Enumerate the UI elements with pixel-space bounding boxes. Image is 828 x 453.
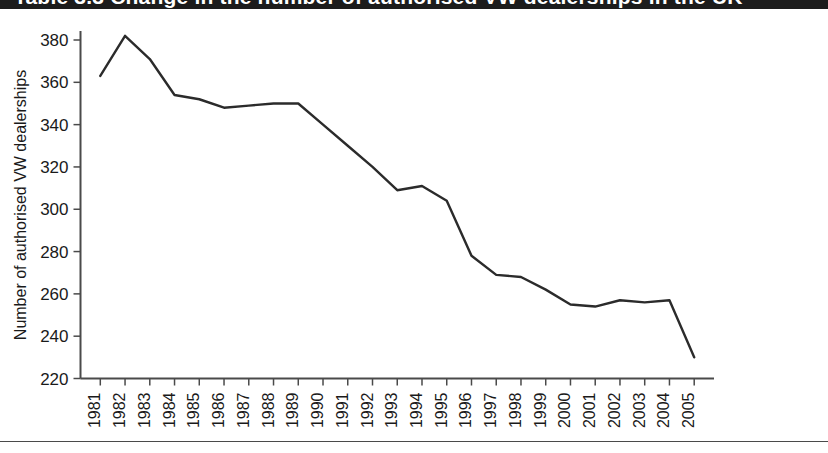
y-axis-title: Number of authorised VW dealerships bbox=[12, 70, 29, 340]
x-tick-label: 1993 bbox=[383, 392, 400, 428]
x-tick-label: 2002 bbox=[606, 392, 623, 428]
x-tick-label: 1982 bbox=[111, 392, 128, 428]
y-tick-label: 240 bbox=[40, 327, 68, 346]
x-tick-label: 1992 bbox=[359, 392, 376, 428]
y-axis-ticks bbox=[74, 40, 81, 379]
x-tick-label: 2004 bbox=[655, 392, 672, 428]
page-bottom-fill bbox=[0, 444, 828, 453]
x-tick-label: 1998 bbox=[507, 392, 524, 428]
y-tick-label: 300 bbox=[40, 200, 68, 219]
chart-figure: 220240260280300320340360380 198119821983… bbox=[0, 9, 828, 434]
x-tick-label: 1989 bbox=[284, 392, 301, 428]
x-tick-label: 1987 bbox=[235, 392, 252, 428]
y-tick-label: 380 bbox=[40, 31, 68, 50]
title-banner: Table 3.3 Change in the number of author… bbox=[0, 0, 828, 9]
data-series-line bbox=[100, 36, 694, 358]
banner-title-text: Table 3.3 Change in the number of author… bbox=[14, 0, 743, 9]
y-tick-label: 260 bbox=[40, 285, 68, 304]
x-tick-label: 1996 bbox=[457, 392, 474, 428]
x-tick-label: 1990 bbox=[309, 392, 326, 428]
x-axis-tick-labels: 1981198219831984198519861987198819891990… bbox=[86, 392, 697, 428]
x-tick-label: 1981 bbox=[86, 392, 103, 428]
x-tick-label: 1985 bbox=[185, 392, 202, 428]
chart-svg: 220240260280300320340360380 198119821983… bbox=[0, 9, 828, 434]
x-tick-label: 1983 bbox=[136, 392, 153, 428]
y-tick-label: 320 bbox=[40, 158, 68, 177]
y-axis-tick-labels: 220240260280300320340360380 bbox=[40, 31, 68, 389]
x-tick-label: 2003 bbox=[631, 392, 648, 428]
x-tick-label: 1984 bbox=[161, 392, 178, 428]
x-tick-label: 1988 bbox=[260, 392, 277, 428]
x-tick-label: 2001 bbox=[581, 392, 598, 428]
x-tick-label: 2000 bbox=[556, 392, 573, 428]
y-tick-label: 220 bbox=[40, 370, 68, 389]
x-tick-label: 2005 bbox=[680, 392, 697, 428]
y-tick-label: 280 bbox=[40, 243, 68, 262]
line-chart: 220240260280300320340360380 198119821983… bbox=[0, 9, 828, 434]
x-tick-label: 1994 bbox=[408, 392, 425, 428]
x-tick-label: 1986 bbox=[210, 392, 227, 428]
x-axis-ticks bbox=[100, 379, 694, 386]
x-tick-label: 1995 bbox=[433, 392, 450, 428]
x-tick-label: 1997 bbox=[482, 392, 499, 428]
x-tick-label: 1991 bbox=[334, 392, 351, 428]
y-tick-label: 340 bbox=[40, 116, 68, 135]
x-tick-label: 1999 bbox=[532, 392, 549, 428]
y-tick-label: 360 bbox=[40, 73, 68, 92]
